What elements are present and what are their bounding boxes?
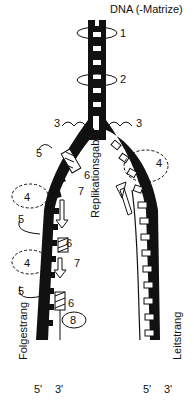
label-4-right: 4 (156, 158, 162, 169)
label-1: 1 (120, 28, 126, 39)
label-4-left-a: 4 (24, 192, 30, 203)
end-left-3: 3' (55, 384, 63, 395)
label-6c: 6 (68, 298, 74, 309)
label-7a: 7 (78, 186, 84, 197)
label-5c: 5 (18, 286, 24, 297)
label-6b: 6 (66, 238, 72, 249)
label-7b: 7 (74, 258, 80, 269)
end-right-5: 5' (143, 384, 151, 395)
replication-fork-label: Replikationsgabel (90, 131, 101, 218)
label-2: 2 (120, 74, 126, 85)
parental-duplex (88, 20, 106, 140)
end-right-3: 3' (164, 384, 172, 395)
label-8: 8 (70, 315, 76, 326)
label-3-left: 3 (54, 118, 60, 129)
label-5b: 5 (18, 214, 24, 225)
lagging-strand-label: Folgestrang (18, 302, 29, 360)
label-4-left-b: 4 (24, 258, 30, 269)
leading-strand-label: Leitstrang (172, 312, 183, 360)
label-5a: 5 (36, 148, 42, 159)
end-left-5: 5' (34, 384, 42, 395)
dna-template-label: DNA (-Matrize) (110, 4, 183, 15)
lagging-template-strand (36, 120, 96, 340)
label-3-right: 3 (136, 118, 142, 129)
